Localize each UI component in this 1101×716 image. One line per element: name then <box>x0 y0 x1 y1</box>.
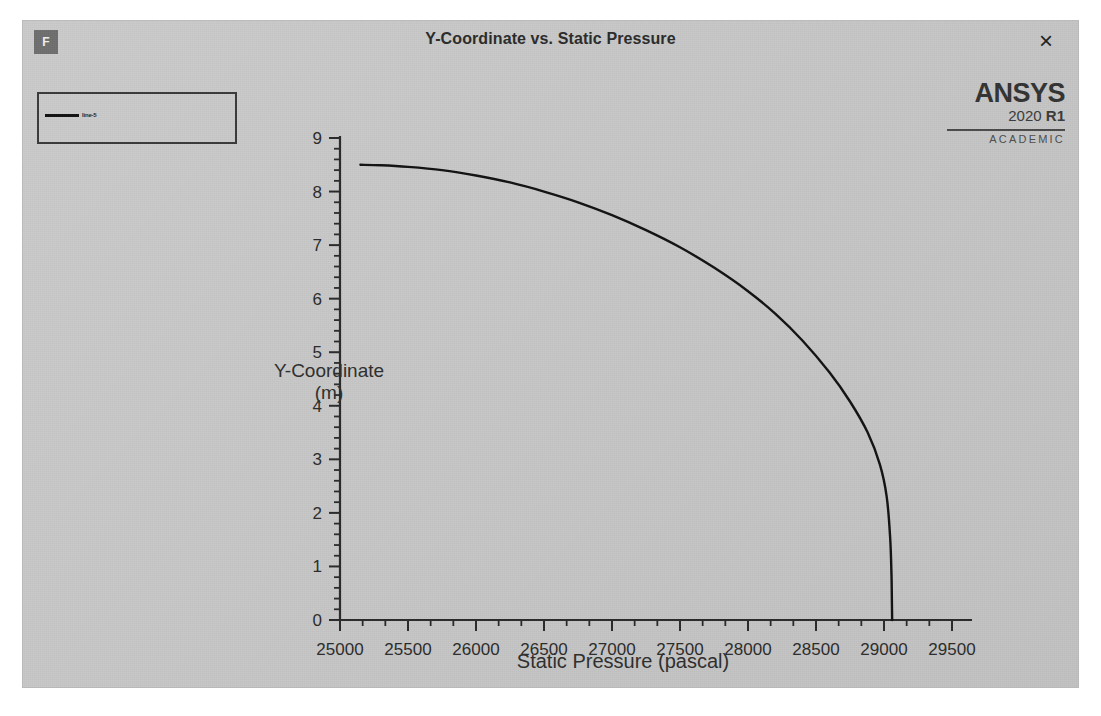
data-series-line <box>360 165 892 620</box>
y-axis-tick-label: 1 <box>313 557 322 576</box>
y-axis-tick-label: 8 <box>313 183 322 202</box>
x-axis-title-text: Static Pressure (pascal) <box>517 650 729 673</box>
y-axis-tick-label: 6 <box>313 290 322 309</box>
y-axis-tick-label: 3 <box>313 450 322 469</box>
chart-plot-area: 0123456789250002550026000265002700027500… <box>22 20 1079 688</box>
y-axis-title-line2: (m) <box>254 382 404 404</box>
plot-window: F Y-Coordinate vs. Static Pressure × lin… <box>22 20 1079 688</box>
y-axis-tick-label: 9 <box>313 129 322 148</box>
y-axis-tick-label: 2 <box>313 504 322 523</box>
y-axis-tick-label: 0 <box>313 611 322 630</box>
chart-canvas: 0123456789250002550026000265002700027500… <box>22 20 1079 688</box>
y-axis-title: Y-Coordinate (m) <box>254 360 404 405</box>
y-axis-tick-label: 7 <box>313 236 322 255</box>
x-axis-title: Static Pressure (pascal) <box>22 650 1079 673</box>
y-axis-title-line1: Y-Coordinate <box>254 360 404 382</box>
